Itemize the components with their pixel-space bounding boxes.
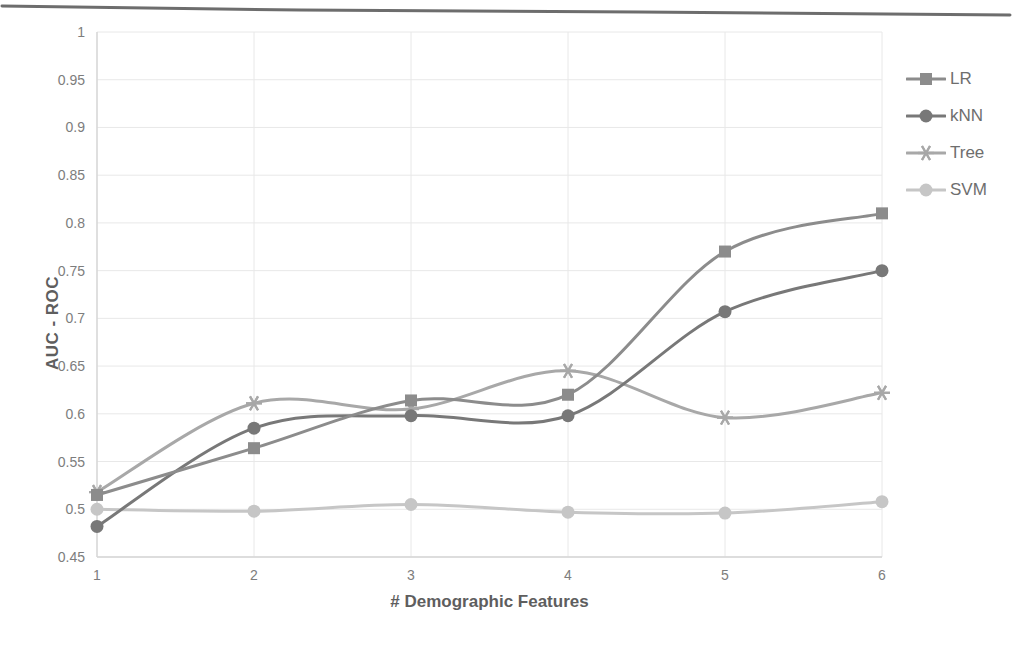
plot-area xyxy=(0,0,1018,646)
legend-label: kNN xyxy=(950,106,983,126)
data-point-knn xyxy=(91,520,104,533)
x-tick-label: 2 xyxy=(250,567,258,583)
data-point-knn xyxy=(562,409,575,422)
data-point-lr xyxy=(876,207,888,219)
legend-item-lr[interactable]: LR xyxy=(906,60,1016,97)
x-axis-title: # Demographic Features xyxy=(97,592,882,612)
data-point-svm xyxy=(876,495,889,508)
series-svm xyxy=(91,495,889,519)
data-point-svm xyxy=(562,506,575,519)
chart-legend: LRkNNTreeSVM xyxy=(906,60,1016,208)
legend-marker-glyph xyxy=(920,73,932,85)
data-point-lr xyxy=(91,489,103,501)
x-tick-label: 1 xyxy=(93,567,101,583)
legend-marker-glyph xyxy=(920,109,933,122)
legend-marker-lr-icon xyxy=(906,69,946,89)
y-tick-label: 0.55 xyxy=(0,454,85,470)
legend-marker-glyph xyxy=(918,146,934,160)
y-tick-label: 0.45 xyxy=(0,549,85,565)
legend-label: LR xyxy=(950,69,972,89)
series-line-svm xyxy=(97,502,882,514)
x-tick-label: 6 xyxy=(878,567,886,583)
data-point-lr xyxy=(405,394,417,406)
legend-item-svm[interactable]: SVM xyxy=(906,171,1016,208)
series-line-knn xyxy=(97,271,882,527)
data-point-lr xyxy=(719,246,731,258)
data-point-lr xyxy=(562,389,574,401)
legend-item-tree[interactable]: Tree xyxy=(906,134,1016,171)
data-point-knn xyxy=(719,305,732,318)
data-point-knn xyxy=(405,409,418,422)
data-point-svm xyxy=(91,503,104,516)
series-knn xyxy=(91,264,889,533)
legend-label: SVM xyxy=(950,180,987,200)
data-point-svm xyxy=(405,498,418,511)
y-tick-label: 0.95 xyxy=(0,72,85,88)
data-point-svm xyxy=(248,505,261,518)
legend-label: Tree xyxy=(950,143,984,163)
y-tick-label: 1 xyxy=(0,24,85,40)
series-lr xyxy=(91,207,888,501)
y-tick-label: 0.9 xyxy=(0,119,85,135)
y-tick-label: 0.6 xyxy=(0,406,85,422)
series-line-tree xyxy=(97,371,882,492)
legend-marker-tree-icon xyxy=(906,143,946,163)
y-axis-title: AUC - ROC xyxy=(43,276,63,370)
y-tick-label: 0.85 xyxy=(0,167,85,183)
legend-item-knn[interactable]: kNN xyxy=(906,97,1016,134)
chart-figure: 0.450.50.550.60.650.70.750.80.850.90.951… xyxy=(0,0,1018,646)
series-tree xyxy=(89,364,890,499)
y-tick-label: 0.5 xyxy=(0,501,85,517)
series-line-lr xyxy=(97,213,882,495)
data-point-lr xyxy=(248,442,260,454)
data-point-svm xyxy=(719,507,732,520)
y-tick-label: 0.8 xyxy=(0,215,85,231)
legend-marker-knn-icon xyxy=(906,106,946,126)
x-tick-label: 3 xyxy=(407,567,415,583)
data-point-knn xyxy=(876,264,889,277)
x-tick-label: 5 xyxy=(721,567,729,583)
legend-marker-svm-icon xyxy=(906,180,946,200)
data-point-knn xyxy=(248,422,261,435)
legend-marker-glyph xyxy=(920,183,933,196)
x-tick-label: 4 xyxy=(564,567,572,583)
